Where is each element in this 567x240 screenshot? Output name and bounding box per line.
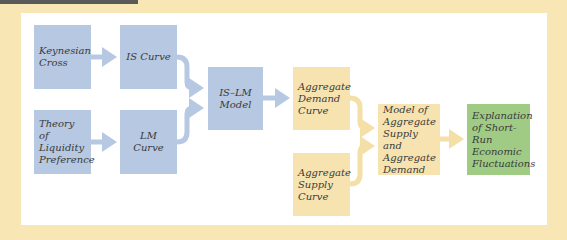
node-aggregate-demand: Aggregate Demand Curve (293, 67, 350, 130)
node-label: IS–LM Model (218, 87, 253, 111)
node-keynesian-cross: Keynesian Cross (34, 25, 91, 89)
arrow-as-to-model (350, 146, 370, 184)
node-ad-as-model: Model of Aggregate Supply and Aggregate … (378, 104, 440, 175)
node-label: LM Curve (125, 130, 172, 154)
node-label: Keynesian Cross (39, 45, 86, 69)
node-aggregate-supply: Aggregate Supply Curve (293, 153, 350, 216)
node-is-curve: IS Curve (120, 25, 177, 89)
node-explanation: Explanation of Short-Run Economic Fluctu… (467, 104, 530, 175)
node-is-lm-model: IS–LM Model (208, 67, 263, 130)
node-lm-curve: LM Curve (120, 110, 177, 174)
node-label: Theory of Liquidity Preference (39, 118, 86, 166)
node-label: Model of Aggregate Supply and Aggregate … (383, 104, 435, 176)
node-label: Explanation of Short-Run Economic Fluctu… (472, 110, 525, 170)
node-label: Aggregate Demand Curve (298, 81, 345, 117)
node-liquidity-preference: Theory of Liquidity Preference (34, 110, 91, 174)
node-label: Aggregate Supply Curve (298, 167, 345, 203)
arrow-is-to-islm (177, 57, 199, 88)
node-label: IS Curve (125, 51, 172, 63)
arrow-ad-to-model (350, 98, 370, 128)
arrow-lm-to-islm (177, 108, 199, 142)
